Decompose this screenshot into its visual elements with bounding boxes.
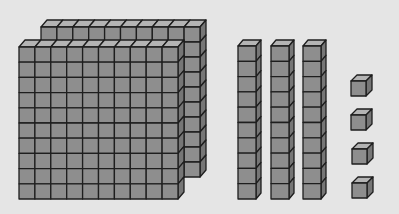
front-face-cell <box>238 46 256 61</box>
front-face-cell <box>238 107 256 122</box>
front-face-cell <box>83 184 99 199</box>
front-face-cell <box>303 153 321 168</box>
front-face-cell <box>238 61 256 76</box>
front-face-cell <box>146 93 162 108</box>
unit-cube-4 <box>352 177 373 198</box>
front-face-cell <box>130 184 146 199</box>
front-face-cell <box>67 62 83 77</box>
front-face-cell <box>51 77 67 92</box>
front-face-cell <box>35 93 51 108</box>
front-face-cell <box>162 47 178 62</box>
front-face-cell <box>35 153 51 168</box>
blocks-canvas <box>0 0 399 214</box>
front-face-cell <box>184 117 200 132</box>
front-face-cell <box>99 123 115 138</box>
front-face-cell <box>238 153 256 168</box>
front-face-cell <box>184 147 200 162</box>
front-face-cell <box>351 115 366 130</box>
front-face-cell <box>67 77 83 92</box>
front-face-cell <box>51 62 67 77</box>
tens-rod-3 <box>303 40 326 199</box>
front-face-cell <box>51 123 67 138</box>
front-face-cell <box>51 169 67 184</box>
front-face-cell <box>19 153 35 168</box>
front-face-cell <box>271 107 289 122</box>
front-face-cell <box>238 168 256 183</box>
front-face-cell <box>114 169 130 184</box>
front-face-cell <box>130 138 146 153</box>
front-face-cell <box>35 47 51 62</box>
front-face-cell <box>114 47 130 62</box>
front-face-cell <box>19 93 35 108</box>
front-face-cell <box>99 77 115 92</box>
front-face-cell <box>303 168 321 183</box>
front-face-cell <box>51 108 67 123</box>
front-face-cell <box>19 47 35 62</box>
tens-rods-group <box>238 40 326 199</box>
front-face-cell <box>130 153 146 168</box>
front-face-cell <box>19 77 35 92</box>
front-face-cell <box>184 72 200 87</box>
front-face-cell <box>51 93 67 108</box>
front-face-cell <box>35 108 51 123</box>
front-face-cell <box>114 93 130 108</box>
front-face-cell <box>162 77 178 92</box>
front-face-cell <box>271 61 289 76</box>
front-face-cell <box>303 184 321 199</box>
front-face-cell <box>271 77 289 92</box>
front-face-cell <box>271 123 289 138</box>
front-face-cell <box>271 168 289 183</box>
front-face-cell <box>130 93 146 108</box>
front-face-cell <box>162 169 178 184</box>
front-face-cell <box>146 77 162 92</box>
front-face-cell <box>67 153 83 168</box>
front-face-cell <box>303 46 321 61</box>
front-face-cell <box>130 123 146 138</box>
front-face-cell <box>51 47 67 62</box>
front-face-cell <box>238 92 256 107</box>
front-face-cell <box>184 102 200 117</box>
front-face-cell <box>162 108 178 123</box>
front-face-cell <box>184 42 200 57</box>
front-face-cell <box>303 138 321 153</box>
front-face-cell <box>67 184 83 199</box>
front-face-cell <box>83 108 99 123</box>
front-face-cell <box>83 93 99 108</box>
front-face-cell <box>35 184 51 199</box>
front-face-cell <box>303 107 321 122</box>
front-face-cell <box>114 108 130 123</box>
front-face-cell <box>114 62 130 77</box>
front-face-cell <box>114 123 130 138</box>
front-face-cell <box>83 62 99 77</box>
front-face-cell <box>83 153 99 168</box>
front-face-cell <box>146 184 162 199</box>
front-face-cell <box>162 153 178 168</box>
front-face-cell <box>99 153 115 168</box>
front-face-cell <box>162 138 178 153</box>
front-face-cell <box>67 169 83 184</box>
front-face-cell <box>271 184 289 199</box>
front-face-cell <box>303 123 321 138</box>
front-face-cell <box>19 169 35 184</box>
front-face-cell <box>184 132 200 147</box>
front-face-cell <box>51 184 67 199</box>
front-face-cell <box>35 123 51 138</box>
front-face-cell <box>19 123 35 138</box>
front-face-cell <box>19 108 35 123</box>
front-face-cell <box>352 149 367 164</box>
front-face-cell <box>303 61 321 76</box>
front-face-cell <box>67 138 83 153</box>
front-face-cell <box>130 47 146 62</box>
front-face-cell <box>238 138 256 153</box>
front-face-cell <box>146 108 162 123</box>
unit-cube-3 <box>352 143 373 164</box>
front-face-cell <box>162 184 178 199</box>
front-face-cell <box>271 92 289 107</box>
front-face-cell <box>83 47 99 62</box>
hundreds-flats-group <box>19 20 206 199</box>
front-face-cell <box>184 27 200 42</box>
front-face-cell <box>114 184 130 199</box>
hundreds-flat-2 <box>19 40 184 199</box>
front-face-cell <box>99 169 115 184</box>
front-face-cell <box>146 138 162 153</box>
